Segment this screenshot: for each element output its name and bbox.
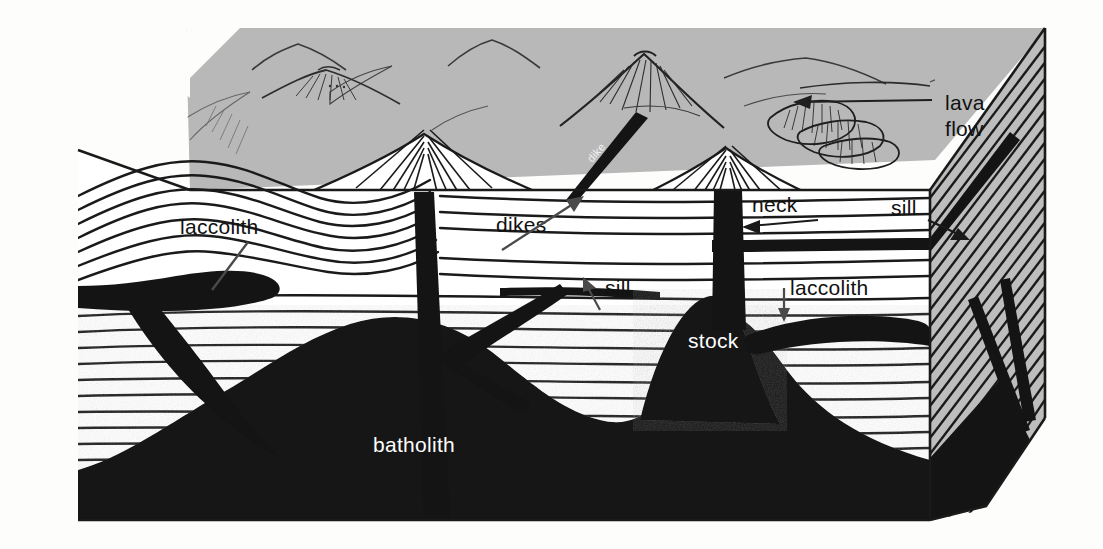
ash-dot-1	[329, 85, 331, 87]
label-neck: neck	[752, 193, 798, 216]
volcanic-neck-body	[712, 190, 746, 330]
label-sill-center: sill	[605, 276, 631, 299]
label-batholith: batholith	[373, 433, 455, 456]
label-lava-flow-line2: flow	[945, 117, 984, 140]
label-laccolith-right: laccolith	[790, 276, 869, 299]
label-stock: stock	[688, 329, 739, 352]
ash-dot-3	[343, 86, 345, 88]
ash-dot-2	[336, 85, 338, 87]
sill-right-body	[712, 238, 930, 252]
label-sill-right: sill	[891, 196, 917, 219]
figure-page: different masses formed.	[0, 0, 1103, 549]
label-lava-flow-line1: lava	[945, 91, 985, 114]
label-dikes: dikes	[496, 213, 547, 236]
geology-block-diagram: dike	[0, 0, 1103, 549]
label-laccolith-left: laccolith	[180, 215, 259, 238]
